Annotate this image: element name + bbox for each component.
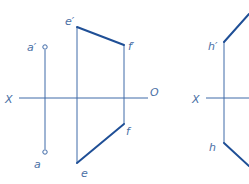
line-ef-upper-projection	[77, 27, 124, 45]
axis-label-x-left: X	[4, 93, 13, 106]
axis-label-x-right: X	[191, 93, 200, 106]
label-f-lower: f	[126, 125, 132, 138]
label-e-lower: e	[81, 167, 88, 180]
line-h-lower-projection	[224, 143, 249, 166]
axis-label-o: O	[150, 86, 159, 99]
projection-diagram: X O a′ a e′ f′ e f X h′ h	[0, 0, 249, 184]
label-e-upper: e′	[65, 15, 75, 28]
label-h-upper: h′	[208, 40, 218, 53]
label-h-lower: h	[209, 141, 216, 154]
line-ef-lower-projection	[77, 124, 124, 163]
label-a-lower: a	[34, 158, 41, 171]
right-figure: X h′ h	[191, 14, 249, 166]
left-figure: X O a′ a e′ f′ e f	[4, 15, 159, 180]
label-a-upper: a′	[27, 41, 37, 54]
label-f-upper: f′	[128, 40, 135, 53]
line-h-upper-projection	[224, 14, 249, 42]
point-a-lower	[43, 150, 47, 154]
point-a-upper	[43, 45, 47, 49]
